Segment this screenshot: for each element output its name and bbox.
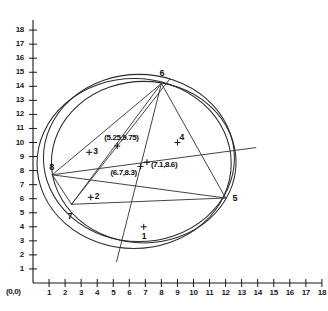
y-tick-label-3: 3 — [10, 237, 24, 245]
circles-group — [37, 74, 236, 248]
y-tick-label-14: 14 — [10, 82, 24, 90]
plot-svg — [0, 0, 328, 311]
x-tick-label-2: 2 — [58, 289, 72, 297]
chord-6-5 — [161, 83, 225, 198]
x-tick-label-7: 7 — [138, 289, 152, 297]
x-tick-label-6: 6 — [122, 289, 136, 297]
x-tick-label-10: 10 — [187, 289, 201, 297]
y-tick-label-13: 13 — [10, 96, 24, 104]
point-label-2: 2 — [95, 192, 100, 201]
y-tick-label-6: 6 — [10, 195, 24, 203]
y-tick-label-2: 2 — [10, 251, 24, 259]
y-tick-label-4: 4 — [10, 223, 24, 231]
coordinate-annotation-1: (5.25,9.75) — [104, 134, 138, 142]
vertex-label-8: 8 — [49, 163, 54, 172]
point-markers-group — [87, 140, 180, 230]
x-tick-label-3: 3 — [74, 289, 88, 297]
x-tick-label-4: 4 — [90, 289, 104, 297]
y-tick-label-8: 8 — [10, 167, 24, 175]
x-tick-label-12: 12 — [219, 289, 233, 297]
y-tick-label-10: 10 — [10, 139, 24, 147]
vertex-label-5: 5 — [233, 194, 238, 203]
chart-canvas: 123456789101112131415161718 123456789101… — [0, 0, 328, 311]
point-label-3: 3 — [93, 147, 98, 156]
vertex-label-6: 6 — [159, 69, 164, 78]
x-tick-label-17: 17 — [299, 289, 313, 297]
origin-label: (0,0) — [6, 288, 20, 296]
plus-marker-point-1 — [141, 224, 146, 229]
axes-group — [29, 20, 322, 287]
y-tick-label-7: 7 — [10, 181, 24, 189]
plus-marker-point-3 — [87, 150, 92, 155]
x-tick-label-5: 5 — [106, 289, 120, 297]
y-tick-label-16: 16 — [10, 54, 24, 62]
chords-group — [52, 79, 256, 262]
y-tick-label-11: 11 — [10, 124, 24, 132]
plus-marker-point-2 — [88, 195, 93, 200]
vertex-label-7: 7 — [68, 212, 73, 221]
coordinate-annotation-3: (6.7,8.3) — [111, 169, 137, 177]
y-tick-label-9: 9 — [10, 153, 24, 161]
y-tick-label-18: 18 — [10, 26, 24, 34]
x-tick-label-16: 16 — [283, 289, 297, 297]
x-tick-label-18: 18 — [315, 289, 328, 297]
x-tick-label-15: 15 — [267, 289, 281, 297]
point-label-4: 4 — [179, 133, 184, 142]
chord-6-8 — [52, 83, 161, 174]
x-tick-label-9: 9 — [170, 289, 184, 297]
y-tick-label-12: 12 — [10, 110, 24, 118]
point-label-1: 1 — [142, 232, 147, 241]
y-tick-label-1: 1 — [10, 265, 24, 273]
x-tick-label-14: 14 — [251, 289, 265, 297]
x-tick-label-13: 13 — [235, 289, 249, 297]
chord-6-7 — [72, 83, 162, 204]
y-tick-label-17: 17 — [10, 40, 24, 48]
x-tick-label-1: 1 — [42, 289, 56, 297]
x-tick-label-8: 8 — [154, 289, 168, 297]
plus-marker-annotated-2 — [144, 160, 149, 165]
x-tick-label-11: 11 — [203, 289, 217, 297]
y-tick-label-15: 15 — [10, 68, 24, 76]
coordinate-annotation-2: (7.1,8.6) — [151, 161, 177, 169]
plus-marker-annotated-3 — [138, 164, 143, 169]
y-tick-label-5: 5 — [10, 209, 24, 217]
